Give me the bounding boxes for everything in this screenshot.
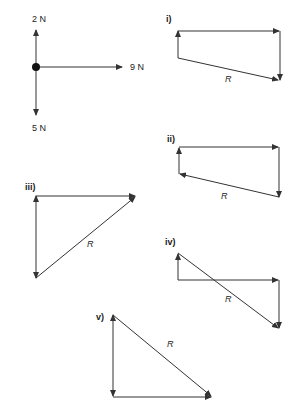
diagram-iv — [178, 253, 279, 328]
diagram-label-ii: ii) — [167, 134, 175, 144]
diagram-ii — [179, 147, 279, 197]
force-label-up: 2 N — [32, 14, 46, 24]
resultant-label-ii: R — [221, 191, 228, 201]
diagram-iii — [36, 196, 135, 278]
diagram-v — [113, 315, 211, 397]
diagram-canvas — [0, 0, 293, 415]
diagram-label-i: i) — [166, 14, 172, 24]
force-diagram — [32, 30, 122, 115]
force-label-down: 5 N — [32, 123, 46, 133]
force-label-right: 9 N — [130, 62, 144, 72]
resultant-label-v: R — [167, 339, 174, 349]
diagram-i — [178, 31, 280, 80]
diagram-label-v: v) — [96, 312, 104, 322]
resultant-label-i: R — [225, 74, 232, 84]
diagram-label-iv: iv) — [165, 237, 176, 247]
resultant-label-iv: R — [225, 294, 232, 304]
diagram-label-iii: iii) — [25, 182, 36, 192]
point-dot — [32, 63, 40, 71]
resultant-label-iii: R — [87, 239, 94, 249]
